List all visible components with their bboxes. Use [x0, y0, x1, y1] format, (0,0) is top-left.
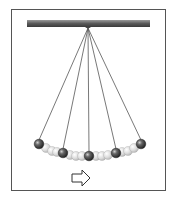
pendulum-ball	[34, 139, 44, 149]
pendulum-strings	[39, 28, 141, 152]
pendulum-ball	[111, 148, 121, 158]
pendulum-ball	[84, 151, 94, 161]
pendulum-diagram	[0, 0, 177, 207]
pendulum-ball	[58, 148, 68, 158]
right-arrow-icon	[72, 170, 90, 186]
pendulum-ball	[136, 139, 146, 149]
support-bar	[27, 20, 150, 28]
